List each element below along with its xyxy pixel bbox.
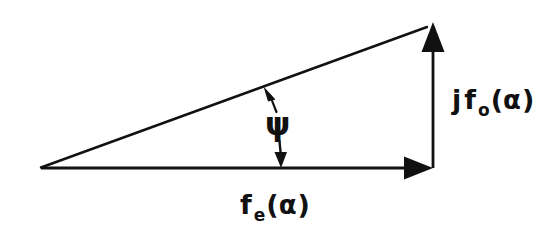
imaginary-phasor (422, 22, 445, 168)
imaginary-label-j-prefix: j (452, 84, 464, 115)
angle-indicator-upper-arrowhead (264, 87, 276, 102)
imaginary-label-function: f (464, 84, 477, 115)
real-component-label: fe(α) (240, 191, 310, 224)
real-phasor-arrowhead (404, 157, 433, 180)
real-label-open-paren: ( (266, 189, 278, 220)
real-label-argument: α (279, 190, 298, 220)
imaginary-label-subscript: o (477, 100, 491, 120)
angle-symbol-psi: ψ (265, 108, 290, 140)
resultant-phasor (41, 27, 427, 168)
phasor-diagram-figure: ψ jfo(α) fe(α) (0, 0, 553, 239)
real-phasor (41, 157, 433, 180)
imaginary-label-open-paren: ( (491, 84, 503, 115)
real-label-subscript: e (253, 205, 267, 225)
resultant-phasor-line (41, 27, 427, 168)
real-label-close-paren: ) (298, 189, 310, 220)
real-label-function: f (240, 189, 253, 220)
imaginary-label-argument: α (503, 85, 522, 115)
imaginary-label-close-paren: ) (522, 84, 534, 115)
angle-indicator-lower-arrowhead (275, 152, 288, 168)
imaginary-component-label: jfo(α) (452, 86, 534, 119)
